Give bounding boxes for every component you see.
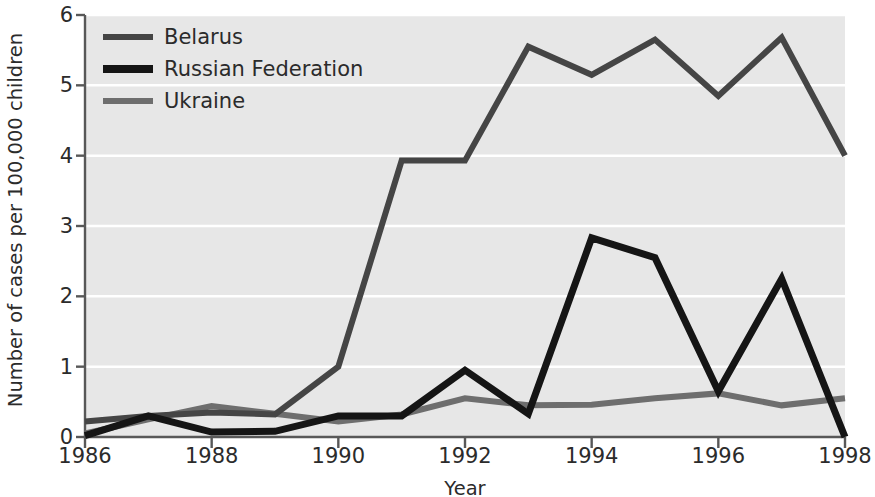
chart-legend: BelarusRussian FederationUkraine (103, 24, 363, 114)
legend-swatch-icon (103, 98, 153, 104)
x-tick-label: 1990 (293, 444, 383, 468)
y-tick-label: 2 (33, 284, 73, 308)
legend-label: Ukraine (164, 91, 245, 112)
x-tick-label: 1998 (800, 444, 875, 468)
y-axis-title: Number of cases per 100,000 children (0, 0, 30, 440)
y-tick-label: 3 (33, 214, 73, 238)
x-tick-label: 1992 (420, 444, 510, 468)
legend-item: Ukraine (103, 88, 363, 114)
legend-item: Belarus (103, 24, 363, 50)
y-tick-label: 4 (33, 144, 73, 168)
x-axis-title: Year (85, 477, 845, 497)
legend-label: Belarus (164, 27, 243, 48)
y-tick-label: 5 (33, 73, 73, 97)
y-tick-label: 1 (33, 355, 73, 379)
x-tick-label: 1994 (547, 444, 637, 468)
legend-swatch-icon (103, 65, 153, 73)
legend-swatch-icon (103, 34, 153, 40)
x-tick-label: 1988 (167, 444, 257, 468)
legend-item: Russian Federation (103, 56, 363, 82)
legend-label: Russian Federation (164, 59, 363, 80)
y-tick-label: 6 (33, 3, 73, 27)
x-tick-label: 1996 (673, 444, 763, 468)
x-tick-label: 1986 (40, 444, 130, 468)
